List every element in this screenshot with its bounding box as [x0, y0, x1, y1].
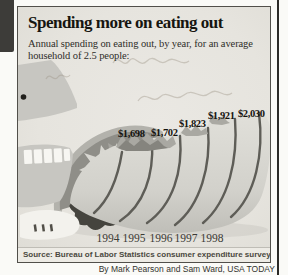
chart-subtitle: Annual spending on eating out, by year, … — [28, 38, 268, 62]
value-label-1994: $1,698 — [118, 128, 144, 139]
newspaper-infographic: Spending more on eating out Annual spend… — [0, 0, 288, 275]
source-text: Source: Bureau of Labor Statistics consu… — [23, 250, 271, 259]
value-label-1997: $1,921 — [208, 110, 234, 121]
year-label-1995: 1995 — [120, 232, 148, 244]
handwriting-marks — [46, 58, 232, 101]
value-label-1998: $2,030 — [238, 108, 264, 119]
byline-text: By Mark Pearson and Sam Ward, USA TODAY — [99, 264, 275, 274]
plate-shape — [20, 210, 79, 240]
year-label-1996: 1996 — [147, 232, 175, 244]
corner-scan-artifact — [0, 0, 14, 52]
year-label-1997: 1997 — [172, 232, 200, 244]
chart-panel: Spending more on eating out Annual spend… — [17, 6, 271, 263]
chart-subtitle-line2: household of 2.5 people: — [28, 50, 268, 62]
year-label-1998: 1998 — [198, 232, 226, 244]
value-label-1996: $1,823 — [179, 118, 205, 129]
eye-icon — [21, 94, 27, 100]
upper-head — [18, 60, 77, 121]
chart-subtitle-line1: Annual spending on eating out, by year, … — [28, 38, 268, 50]
column-rule — [277, 0, 279, 275]
page-title: Spending more on eating out — [28, 13, 268, 33]
source-band: Source: Bureau of Labor Statistics consu… — [18, 247, 270, 262]
year-label-1994: 1994 — [94, 232, 122, 244]
value-label-1995: $1,702 — [151, 127, 177, 138]
